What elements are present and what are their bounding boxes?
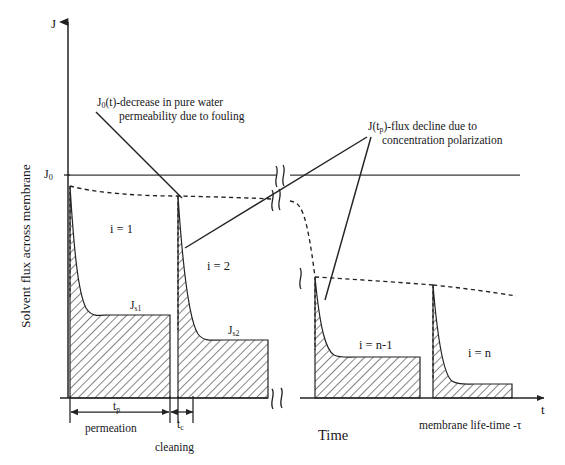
leader-j0t — [96, 112, 182, 198]
tp-subscript: p — [116, 405, 120, 414]
leader-jtp-to-cycle3 — [325, 137, 371, 300]
cycle-1-area — [70, 186, 170, 398]
plateau-label-2: Js2 — [228, 324, 239, 338]
leader-jtp-to-cycle2 — [185, 137, 367, 248]
j0-reference-line — [68, 165, 520, 187]
time-span-tp-symbol: tp — [113, 400, 120, 414]
annotation-jtp: J(tp)-flux decline due to concentration … — [368, 120, 502, 148]
cycle-label-4: i = n — [468, 346, 491, 361]
x-axis-symbol: t — [541, 402, 545, 417]
annotation-j0t-line2: permeability due to fouling — [97, 110, 245, 124]
dashed-curve-break-mark-2 — [300, 268, 302, 289]
annotation-j0t: J0(t)-decrease in pure water permeabilit… — [97, 96, 245, 124]
cycle-label-2: i = 2 — [207, 259, 230, 274]
plateau-label-1: Js1 — [130, 299, 141, 313]
flux-diagram-svg — [0, 0, 565, 465]
membrane-lifetime-label: membrane life-time -τ — [419, 419, 521, 433]
x-axis-title: Time — [318, 427, 348, 444]
j0-tick-subscript: 0 — [49, 173, 53, 182]
tc-subscript: c — [180, 423, 183, 432]
time-span-tc-symbol: tc — [177, 418, 184, 432]
j0t-dashed-curve — [70, 186, 516, 296]
j0-line-break-mark — [276, 165, 285, 187]
annotation-jtp-line1: )-flux decline due to — [383, 120, 477, 132]
cycle-label-1: i = 1 — [110, 222, 133, 237]
cycle-2-area — [178, 196, 268, 398]
y-axis-symbol: J — [51, 16, 56, 31]
y-axis-label: Solvent flux across membrane — [18, 164, 34, 328]
annotation-j0t-line1: (t)-decrease in pure water — [105, 96, 223, 108]
figure-root: J t Solvent flux across membrane J0 J0(t… — [0, 0, 565, 465]
annotation-leader-lines — [96, 112, 371, 300]
annotation-jtp-symbol: J(t — [368, 120, 380, 132]
plateau-label-1-subscript: s1 — [134, 304, 141, 313]
time-span-tp-caption: permeation — [85, 422, 137, 436]
plateau-label-2-subscript: s2 — [232, 329, 239, 338]
x-axis-break-mark — [272, 388, 283, 409]
cycle-label-3: i = n-1 — [359, 338, 392, 353]
j0-tick-label: J0 — [44, 167, 53, 183]
annotation-jtp-line2: concentration polarization — [368, 134, 502, 148]
time-span-tc-caption: cleaning — [155, 441, 194, 455]
cycle-4-area — [433, 285, 512, 398]
time-span-measures — [70, 396, 193, 423]
cycle-hatched-areas — [70, 186, 512, 398]
